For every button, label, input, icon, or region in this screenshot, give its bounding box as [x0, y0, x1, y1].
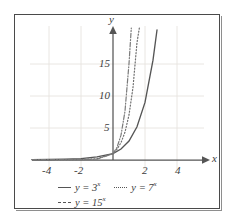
legend-entry-y-7x: y = 7x — [114, 181, 156, 193]
curve-y-3x — [32, 30, 157, 160]
legend-row-2: y = 15x — [58, 196, 106, 208]
legend-label-y-15x: y = 15x — [75, 196, 106, 208]
curve-y-15x — [32, 28, 131, 160]
y-tick-label-15: 15 — [99, 58, 110, 69]
legend-entry-y-15x: y = 15x — [58, 196, 106, 208]
y-axis-label: y — [109, 14, 114, 25]
y-axis — [109, 26, 117, 160]
y-tick-label-10: 10 — [99, 90, 110, 101]
legend-swatch-dotted-icon — [114, 187, 127, 188]
exponential-functions-figure: y x 15 10 5 -4 -2 2 4 y = 3x y = 7x y = … — [0, 0, 235, 223]
y-tick-label-5: 5 — [104, 122, 110, 133]
x-tick-label-2: 2 — [142, 165, 148, 176]
plot-area — [14, 14, 220, 209]
x-tick-label-neg4: -4 — [42, 165, 51, 176]
x-axis-label: x — [212, 153, 217, 164]
legend-swatch-solid-icon — [58, 187, 71, 188]
legend-row-1: y = 3x y = 7x — [58, 181, 157, 193]
legend-swatch-dashdot-icon — [58, 202, 71, 203]
x-tick-label-4: 4 — [175, 165, 181, 176]
legend-label-y-7x: y = 7x — [131, 181, 156, 193]
x-tick-label-neg2: -2 — [74, 165, 83, 176]
legend-label-y-3x: y = 3x — [75, 181, 100, 193]
legend-entry-y-3x: y = 3x — [58, 181, 100, 193]
x-axis — [32, 156, 210, 164]
curve-y-7x — [32, 27, 140, 160]
